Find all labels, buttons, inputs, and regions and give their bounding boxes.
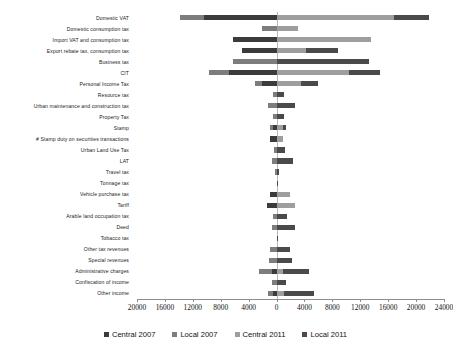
bar-row xyxy=(137,136,444,141)
bar-segment xyxy=(255,81,262,86)
x-axis-tick xyxy=(444,299,445,302)
bar-row xyxy=(137,214,444,219)
bar-segment xyxy=(262,26,277,31)
bar-segment xyxy=(277,48,306,53)
x-axis-tick xyxy=(277,299,278,302)
category-label: Domestic VAT xyxy=(96,15,129,21)
bar-row xyxy=(137,269,444,274)
category-label: Confiscation of income xyxy=(75,279,129,285)
x-axis-tick xyxy=(249,299,250,302)
bar-segment xyxy=(277,214,287,219)
bar-segment xyxy=(269,258,277,263)
bar-segment xyxy=(277,280,287,285)
bar-row xyxy=(137,181,444,186)
x-axis-tick xyxy=(193,299,194,302)
bar-segment xyxy=(277,15,394,20)
x-axis-tick-label: 20000 xyxy=(128,303,146,312)
category-label: Urban Land Use Tax xyxy=(81,147,129,153)
bar-segment xyxy=(277,81,301,86)
bar-row xyxy=(137,225,444,230)
bar-row xyxy=(137,26,444,31)
bar-segment xyxy=(277,291,285,296)
bar-segment xyxy=(277,103,296,108)
x-axis-tick xyxy=(416,299,417,302)
x-axis-tick-label: 8000 xyxy=(325,303,340,312)
bar-segment xyxy=(233,59,276,64)
legend-swatch-icon xyxy=(104,332,109,337)
category-label: Domestic consumption tax xyxy=(67,26,129,32)
x-axis-tick xyxy=(165,299,166,302)
bar-row xyxy=(137,48,444,53)
bar-segment xyxy=(233,37,277,42)
bar-segment xyxy=(277,203,296,208)
legend-label: Local 2007 xyxy=(180,330,217,339)
x-axis-tick-label: 16000 xyxy=(379,303,397,312)
category-label: Special revenues xyxy=(88,257,129,263)
legend-label: Central 2007 xyxy=(112,330,155,339)
category-label: Other tax revenues xyxy=(84,246,129,252)
bar-segment xyxy=(268,291,273,296)
bar-segment xyxy=(268,103,276,108)
bar-row xyxy=(137,103,444,108)
bar-row xyxy=(137,291,444,296)
bar-row xyxy=(137,37,444,42)
legend-item[interactable]: Central 2011 xyxy=(235,330,286,339)
bar-segment xyxy=(259,269,272,274)
category-label: Resource tax xyxy=(98,92,129,98)
bar-segment xyxy=(209,70,229,75)
bar-segment xyxy=(204,15,276,20)
x-axis-tick xyxy=(332,299,333,302)
bar-segment xyxy=(277,59,369,64)
bar-segment xyxy=(301,81,318,86)
category-label: Tonnage tax xyxy=(100,180,129,186)
legend-swatch-icon xyxy=(302,332,307,337)
bar-row xyxy=(137,280,444,285)
bar-segment xyxy=(277,114,285,119)
bar-segment xyxy=(262,81,277,86)
x-axis-line xyxy=(137,299,444,300)
category-label: Vehicle purchase tax xyxy=(80,191,129,197)
x-axis-tick-label: 4000 xyxy=(241,303,256,312)
legend-swatch-icon xyxy=(172,332,177,337)
category-label: Administrative charges xyxy=(75,268,129,274)
bar-row xyxy=(137,258,444,263)
bar-row xyxy=(137,92,444,97)
chart-legend: Central 2007Local 2007Central 2011Local … xyxy=(0,330,451,339)
zero-axis-line xyxy=(277,12,278,299)
bar-segment xyxy=(283,269,309,274)
x-axis-tick-label: 12000 xyxy=(184,303,202,312)
category-axis-labels: Domestic VATDomestic consumption taxImpo… xyxy=(0,12,133,299)
x-axis-tick xyxy=(360,299,361,302)
legend-item[interactable]: Local 2007 xyxy=(172,330,217,339)
bar-row xyxy=(137,236,444,241)
bar-segment xyxy=(277,258,292,263)
category-label: Arable land occupation tax xyxy=(66,213,129,219)
legend-item[interactable]: Central 2007 xyxy=(104,330,155,339)
category-label: Deed xyxy=(116,224,129,230)
x-axis-tick-label: 24000 xyxy=(435,303,453,312)
legend-label: Local 2011 xyxy=(310,330,347,339)
bar-row xyxy=(137,125,444,130)
legend-item[interactable]: Local 2011 xyxy=(302,330,347,339)
bar-row xyxy=(137,158,444,163)
category-label: Tobacco tax xyxy=(101,235,129,241)
category-label: Personal Income Tax xyxy=(80,81,129,87)
x-axis-tick xyxy=(304,299,305,302)
bar-row xyxy=(137,114,444,119)
bar-segment xyxy=(277,37,372,42)
bar-segment xyxy=(270,136,277,141)
bar-segment xyxy=(277,136,284,141)
category-label: # Stamp duty on securities transactions xyxy=(36,136,129,142)
bar-segment xyxy=(229,70,277,75)
legend-swatch-icon xyxy=(235,332,240,337)
bar-segment xyxy=(284,291,314,296)
x-axis-tick xyxy=(388,299,389,302)
bar-segment xyxy=(277,236,278,241)
bar-segment xyxy=(306,48,338,53)
bar-row xyxy=(137,147,444,152)
category-label: Business tax xyxy=(99,59,129,65)
bar-segment xyxy=(277,70,350,75)
category-label: Travel tax xyxy=(106,169,129,175)
bar-segment xyxy=(394,15,429,20)
